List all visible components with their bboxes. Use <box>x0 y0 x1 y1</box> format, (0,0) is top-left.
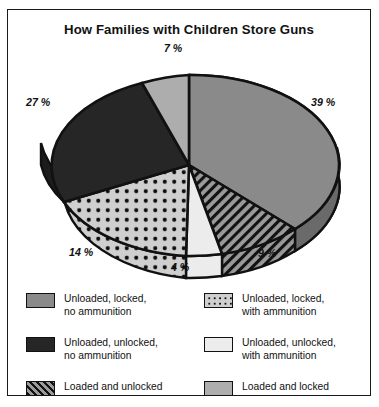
legend-swatch-solid-pale-icon <box>204 337 233 352</box>
legend-item-unloaded-unlocked-with-ammo: Unloaded, unlocked, with ammunition <box>204 336 372 366</box>
legend-label-unloaded-locked-with-ammo: Unloaded, locked, with ammunition <box>242 292 324 318</box>
pie-label-unloaded-locked-with-ammo: 14 % <box>69 246 93 258</box>
legend-column-right: Unloaded, locked, with ammunition Unload… <box>204 292 372 407</box>
pie-slices <box>52 75 339 256</box>
legend-item-unloaded-locked-no-ammo: Unloaded, locked, no ammunition <box>26 292 194 322</box>
legend-label-unloaded-locked-no-ammo: Unloaded, locked, no ammunition <box>64 292 146 318</box>
pie-chart-svg <box>8 44 370 284</box>
legend-label-loaded-locked: Loaded and locked <box>242 380 329 393</box>
pie-label-loaded-unlocked: 9 % <box>258 247 276 259</box>
legend-label-unloaded-unlocked-with-ammo: Unloaded, unlocked, with ammunition <box>242 336 336 362</box>
pie-chart: 7 % 39 % 9 % 4 % 14 % 27 % <box>8 44 370 284</box>
legend-item-loaded-locked: Loaded and locked <box>204 380 372 407</box>
legend-swatch-dots-icon <box>204 293 233 308</box>
pie-label-unloaded-unlocked-with-ammo: 4 % <box>171 261 189 273</box>
depth-wall-pale <box>186 254 222 278</box>
legend-swatch-solid-light-icon <box>204 381 233 396</box>
legend-item-unloaded-unlocked-no-ammo: Unloaded, unlocked, no ammunition <box>26 336 194 366</box>
chart-title: How Families with Children Store Guns <box>8 22 370 37</box>
chart-figure-frame: How Families with Children Store Guns <box>7 9 371 396</box>
pie-label-unloaded-locked-no-ammo: 39 % <box>311 96 335 108</box>
legend-item-unloaded-locked-with-ammo: Unloaded, locked, with ammunition <box>204 292 372 322</box>
chart-legend: Unloaded, locked, no ammunition Unloaded… <box>8 292 370 394</box>
legend-swatch-solid-dark-icon <box>26 337 55 352</box>
legend-swatch-diagonal-hatch-icon <box>26 381 55 396</box>
pie-label-unloaded-unlocked-no-ammo: 27 % <box>26 96 50 108</box>
legend-column-left: Unloaded, locked, no ammunition Unloaded… <box>26 292 194 407</box>
legend-label-loaded-unlocked: Loaded and unlocked <box>64 380 162 393</box>
pie-label-loaded-locked: 7 % <box>164 42 182 54</box>
legend-item-loaded-unlocked: Loaded and unlocked <box>26 380 194 407</box>
legend-label-unloaded-unlocked-no-ammo: Unloaded, unlocked, no ammunition <box>64 336 158 362</box>
legend-swatch-solid-mid-icon <box>26 293 55 308</box>
